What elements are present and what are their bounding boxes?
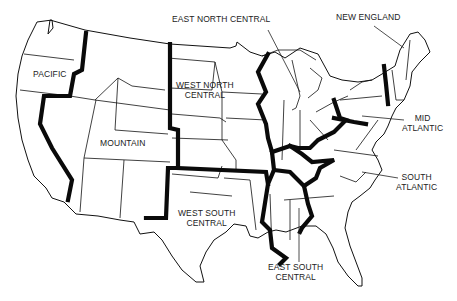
- label-south-atlantic: SOUTH ATLANTIC: [396, 172, 437, 192]
- label-west-north-central: WEST NORTH CENTRAL: [176, 80, 234, 100]
- label-east-north-central: EAST NORTH CENTRAL: [172, 14, 270, 24]
- label-new-england: NEW ENGLAND: [336, 12, 400, 22]
- label-east-south-central: EAST SOUTH CENTRAL: [268, 262, 323, 282]
- label-pacific: PACIFIC: [33, 69, 67, 79]
- label-mountain: MOUNTAIN: [100, 138, 146, 148]
- leader-new-england: [374, 26, 404, 48]
- label-west-south-central: WEST SOUTH CENTRAL: [178, 208, 236, 228]
- us-map: [0, 0, 457, 301]
- us-outline: [16, 20, 430, 286]
- label-mid-atlantic: MID ATLANTIC: [402, 113, 443, 133]
